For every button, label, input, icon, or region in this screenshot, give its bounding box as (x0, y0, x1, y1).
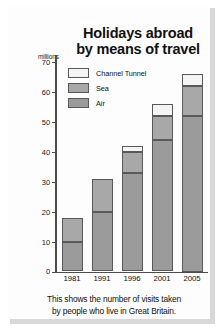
x-axis-label-1981: 1981 (55, 274, 89, 283)
y-tick-10 (52, 242, 57, 243)
x-axis-label-1996: 1996 (115, 274, 149, 283)
y-tick-0 (52, 272, 57, 273)
x-axis-label-2005: 2005 (175, 274, 209, 283)
y-tick-30 (52, 182, 57, 183)
bar-1991-segment-air (92, 212, 113, 272)
legend-swatch-channel-tunnel (68, 68, 89, 78)
bar-1996-segment-channel-tunnel (122, 146, 143, 152)
x-axis-line (55, 272, 208, 274)
plot-area: 70 60 50 40 30 20 10 0 (8, 6, 210, 319)
chart-caption: This shows the number of visits taken by… (22, 294, 206, 317)
bar-2005-segment-air (182, 116, 203, 272)
bar-2005-segment-sea (182, 86, 203, 116)
bar-2005-segment-channel-tunnel (182, 74, 203, 86)
legend-swatch-sea (68, 83, 89, 93)
y-tick-label-0: 0 (24, 267, 50, 276)
card-shadow-bottom (10, 319, 212, 324)
y-tick-label-30: 30 (24, 178, 50, 187)
bar-2001-segment-channel-tunnel (152, 104, 173, 116)
y-axis-line (55, 55, 57, 273)
bar-1996-segment-sea (122, 152, 143, 173)
y-tick-20 (52, 212, 57, 213)
y-tick-label-50: 50 (24, 118, 50, 127)
legend-label-sea: Sea (96, 84, 109, 93)
y-tick-label-10: 10 (24, 238, 50, 247)
legend-label-channel-tunnel: Channel Tunnel (96, 69, 146, 78)
y-tick-70 (52, 62, 57, 63)
legend-swatch-air (68, 98, 89, 108)
bar-1981-segment-sea (62, 218, 83, 242)
chart-page: Holidays abroad by means of travel milli… (0, 0, 218, 335)
x-axis-label-1991: 1991 (85, 274, 119, 283)
chart-caption-line-1: This shows the number of visits taken (22, 294, 206, 306)
y-tick-50 (52, 122, 57, 123)
y-tick-label-20: 20 (24, 208, 50, 217)
y-tick-label-70: 70 (24, 58, 50, 67)
legend-label-air: Air (96, 99, 105, 108)
y-tick-label-60: 60 (24, 88, 50, 97)
bar-1991-segment-sea (92, 179, 113, 212)
x-axis-label-2001: 2001 (145, 274, 179, 283)
chart-caption-line-2: by people who live in Great Britain. (22, 306, 206, 318)
y-tick-60 (52, 92, 57, 93)
chart-card: Holidays abroad by means of travel milli… (8, 6, 210, 319)
bar-1996-segment-air (122, 173, 143, 272)
bar-1981-segment-air (62, 242, 83, 272)
bar-2001-segment-air (152, 140, 173, 272)
y-tick-40 (52, 152, 57, 153)
y-tick-label-40: 40 (24, 148, 50, 157)
bar-2001-segment-sea (152, 116, 173, 140)
